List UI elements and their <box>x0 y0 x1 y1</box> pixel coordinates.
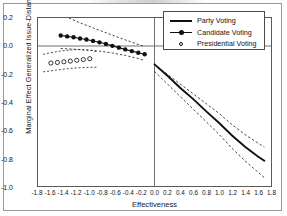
x-tick-label: 1.6 <box>254 189 263 196</box>
x-tick-label: 1.2 <box>228 189 237 196</box>
party-voting-ci-upper <box>155 64 265 147</box>
x-tick-label: 0.6 <box>189 189 198 196</box>
legend-label: Presidential Voting <box>197 39 257 48</box>
party-voting-ci-lower <box>155 71 265 177</box>
y-axis-label: Marginal Effect Generalized Issue-Distan… <box>24 0 33 143</box>
x-tick-label: -0.6 <box>110 189 121 196</box>
x-tick-label: -0.8 <box>97 189 108 196</box>
x-tick-label: 0.0 <box>150 189 159 196</box>
y-tick-label: -1.0 <box>0 184 13 191</box>
legend-key-marker-line-icon <box>168 27 194 38</box>
legend-item-presidential-voting: Presidential Voting <box>168 38 260 50</box>
y-tick-label: -0.4 <box>0 99 13 106</box>
x-axis-label: Effectiveness <box>37 200 272 209</box>
x-tick-label: -0.2 <box>136 189 147 196</box>
x-tick-label: 1.8 <box>267 189 276 196</box>
legend-item-party-voting: Party Voting <box>168 15 260 27</box>
presidential-voting-ci-upper <box>43 50 97 55</box>
legend-label: Candidate Voting <box>197 28 252 37</box>
y-tick-label: 0.0 <box>0 42 13 49</box>
y-tick-label: -0.8 <box>0 156 13 163</box>
x-tick-label: -0.4 <box>123 189 134 196</box>
y-tick-label: -0.2 <box>0 71 13 78</box>
x-tick-label: -1.6 <box>45 189 56 196</box>
y-tick-label: 0.2 <box>0 14 13 21</box>
x-tick-label: 1.0 <box>215 189 224 196</box>
figure-container: 0.2 0.0 -0.2 -0.4 -0.6 -0.8 -1.0 Margina… <box>0 0 287 216</box>
party-voting-line <box>155 64 265 160</box>
x-tick-label: -1.2 <box>71 189 82 196</box>
legend-label: Party Voting <box>197 16 236 25</box>
legend-key-open-circle-icon <box>168 38 194 49</box>
x-tick-label: -1.4 <box>58 189 69 196</box>
legend-item-candidate-voting: Candidate Voting <box>168 27 260 39</box>
presidential-voting-ci-lower <box>43 67 97 72</box>
x-tick-label: 0.2 <box>163 189 172 196</box>
x-tick-label: 0.4 <box>176 189 185 196</box>
legend: Party Voting Candidate Voting Presidenti… <box>163 11 265 50</box>
x-tick-label: -1.0 <box>84 189 95 196</box>
legend-key-solid-line-icon <box>168 15 194 26</box>
x-tick-label: 1.4 <box>241 189 250 196</box>
candidate-voting-markers <box>59 33 147 56</box>
presidential-voting-markers <box>49 57 92 65</box>
y-tick-label: -0.6 <box>0 127 13 134</box>
x-tick-label: -1.8 <box>31 189 42 196</box>
x-tick-label: 0.8 <box>202 189 211 196</box>
